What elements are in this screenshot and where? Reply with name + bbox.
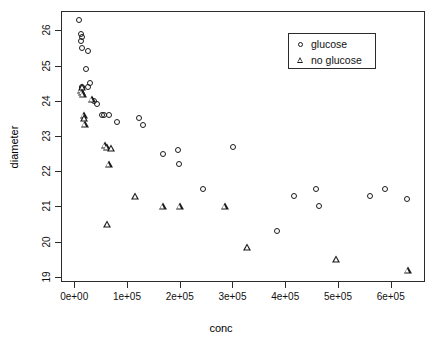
data-point-no-glucose bbox=[107, 145, 115, 152]
data-point-glucose bbox=[76, 17, 82, 23]
x-axis-tick-label: 5e+05 bbox=[324, 291, 352, 302]
x-axis-tick-label: 0e+00 bbox=[60, 291, 88, 302]
y-axis-tick bbox=[55, 242, 61, 243]
triangle-marker-icon bbox=[88, 95, 96, 102]
circle-marker-icon bbox=[316, 203, 322, 209]
legend: glucose no glucose bbox=[288, 33, 376, 69]
triangle-marker-icon bbox=[105, 161, 113, 168]
y-axis-tick-label: 24 bbox=[41, 95, 52, 106]
circle-marker-icon bbox=[274, 228, 280, 234]
x-axis-tick bbox=[285, 282, 286, 288]
x-axis-tick-label: 6e+05 bbox=[377, 291, 405, 302]
triangle-marker-icon bbox=[289, 57, 311, 63]
x-axis-tick bbox=[338, 282, 339, 288]
data-point-glucose bbox=[230, 144, 236, 150]
triangle-marker-icon bbox=[176, 203, 184, 210]
data-point-glucose bbox=[136, 115, 142, 121]
y-axis-tick-label: 20 bbox=[41, 236, 52, 247]
y-axis-tick-label: 22 bbox=[41, 166, 52, 177]
data-point-glucose bbox=[291, 193, 297, 199]
triangle-marker-icon bbox=[404, 266, 412, 273]
circle-marker-icon bbox=[79, 45, 85, 51]
data-point-no-glucose bbox=[159, 203, 167, 210]
data-point-no-glucose bbox=[79, 90, 87, 97]
circle-marker-icon bbox=[382, 186, 388, 192]
y-axis-tick-label: 25 bbox=[41, 60, 52, 71]
y-axis-tick-label: 19 bbox=[41, 271, 52, 282]
circle-marker-icon bbox=[140, 122, 146, 128]
data-point-no-glucose bbox=[88, 95, 96, 102]
circle-marker-icon bbox=[176, 161, 182, 167]
y-axis-tick bbox=[55, 101, 61, 102]
circle-marker-icon bbox=[291, 193, 297, 199]
y-axis-tick-label: 21 bbox=[41, 201, 52, 212]
y-axis-tick bbox=[55, 30, 61, 31]
data-point-glucose bbox=[367, 193, 373, 199]
triangle-marker-icon bbox=[221, 203, 229, 210]
x-axis-tick bbox=[74, 282, 75, 288]
circle-marker-icon bbox=[85, 48, 91, 54]
legend-entry-glucose: glucose bbox=[289, 36, 375, 52]
x-axis-tick bbox=[127, 282, 128, 288]
y-axis-title: diameter bbox=[8, 126, 20, 169]
data-point-no-glucose bbox=[103, 220, 111, 227]
triangle-marker-icon bbox=[332, 256, 340, 263]
triangle-marker-icon bbox=[107, 145, 115, 152]
data-point-glucose bbox=[79, 45, 85, 51]
circle-marker-icon bbox=[289, 42, 311, 47]
data-point-no-glucose bbox=[131, 192, 139, 199]
data-point-glucose bbox=[78, 38, 84, 44]
circle-marker-icon bbox=[367, 193, 373, 199]
x-axis-title: conc bbox=[0, 322, 442, 334]
y-axis-tick bbox=[55, 277, 61, 278]
data-point-glucose bbox=[313, 186, 319, 192]
triangle-marker-icon bbox=[131, 192, 139, 199]
circle-marker-icon bbox=[106, 112, 112, 118]
circle-marker-icon bbox=[404, 196, 410, 202]
circle-marker-icon bbox=[76, 17, 82, 23]
y-axis-tick bbox=[55, 171, 61, 172]
circle-marker-icon bbox=[175, 147, 181, 153]
circle-marker-icon bbox=[313, 186, 319, 192]
y-axis-tick bbox=[55, 206, 61, 207]
y-axis-tick-label: 23 bbox=[41, 130, 52, 141]
data-point-glucose bbox=[176, 161, 182, 167]
data-point-glucose bbox=[114, 119, 120, 125]
data-point-glucose bbox=[160, 151, 166, 157]
data-point-no-glucose bbox=[81, 120, 89, 127]
data-point-glucose bbox=[175, 147, 181, 153]
circle-marker-icon bbox=[78, 38, 84, 44]
x-axis-tick bbox=[391, 282, 392, 288]
circle-marker-icon bbox=[230, 144, 236, 150]
circle-marker-icon bbox=[114, 119, 120, 125]
data-point-glucose bbox=[316, 203, 322, 209]
data-point-glucose bbox=[140, 122, 146, 128]
data-point-glucose bbox=[200, 186, 206, 192]
data-point-glucose bbox=[274, 228, 280, 234]
x-axis-tick-label: 4e+05 bbox=[271, 291, 299, 302]
data-point-no-glucose bbox=[221, 203, 229, 210]
y-axis-tick-label: 26 bbox=[41, 25, 52, 36]
y-axis-tick bbox=[55, 66, 61, 67]
data-point-no-glucose bbox=[176, 203, 184, 210]
data-point-glucose bbox=[85, 48, 91, 54]
circle-marker-icon bbox=[160, 151, 166, 157]
triangle-marker-icon bbox=[81, 120, 89, 127]
legend-label-glucose: glucose bbox=[311, 38, 347, 50]
data-point-glucose bbox=[83, 66, 89, 72]
x-axis-tick-label: 2e+05 bbox=[166, 291, 194, 302]
data-point-no-glucose bbox=[105, 161, 113, 168]
x-axis-tick bbox=[180, 282, 181, 288]
circle-marker-icon bbox=[83, 66, 89, 72]
legend-entry-no-glucose: no glucose bbox=[289, 52, 375, 68]
data-point-glucose bbox=[382, 186, 388, 192]
circle-marker-icon bbox=[200, 186, 206, 192]
x-axis-tick bbox=[232, 282, 233, 288]
x-axis-tick-label: 1e+05 bbox=[113, 291, 141, 302]
circle-marker-icon bbox=[136, 115, 142, 121]
triangle-marker-icon bbox=[79, 90, 87, 97]
triangle-marker-icon bbox=[159, 203, 167, 210]
data-point-no-glucose bbox=[404, 266, 412, 273]
scatter-plot: 0e+001e+052e+053e+054e+055e+056e+0519202… bbox=[0, 0, 442, 345]
data-point-glucose bbox=[106, 112, 112, 118]
